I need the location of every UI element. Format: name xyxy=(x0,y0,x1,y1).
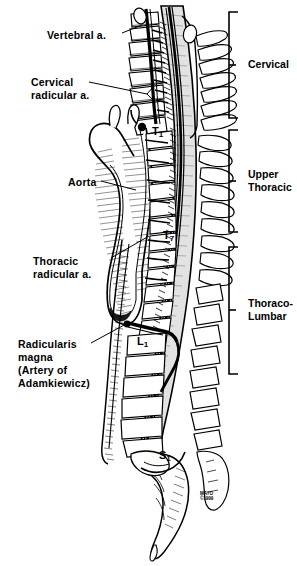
vertebral-level-t7: T7 xyxy=(163,229,174,241)
annotation-line: Radicularis xyxy=(18,338,90,351)
sacrum-coccyx xyxy=(131,451,189,561)
annotation-vertebral-artery: Vertebral a. xyxy=(47,29,106,42)
region-label-line: Cervical xyxy=(248,58,289,71)
annotation-line: radicular a. xyxy=(33,268,91,281)
vertebral-level-number: 7 xyxy=(170,234,174,243)
annotation-line: Aorta xyxy=(68,176,96,189)
vertebral-level-s1: S1 xyxy=(159,449,171,461)
aorta-vessel xyxy=(89,105,152,324)
region-label-upper-thoracic: Upper Thoracic xyxy=(248,168,292,193)
vertebral-level-l1: L1 xyxy=(137,335,148,347)
annotation-line: Cervical xyxy=(31,76,89,89)
region-label-cervical: Cervical xyxy=(248,58,289,71)
lumbar-posterior-elements xyxy=(190,284,223,450)
annotation-line: Vertebral a. xyxy=(47,29,106,42)
region-label-line: Upper xyxy=(248,168,292,181)
credit-line: ©1999 xyxy=(200,496,213,501)
cervical-spinous-processes xyxy=(196,31,236,130)
vertebral-level-letter: L xyxy=(137,335,144,347)
annotation-line: Thoracic xyxy=(33,255,91,268)
annotation-line: magna xyxy=(18,351,90,364)
vertebral-level-number: 1 xyxy=(166,454,170,463)
annotation-thoracic-radicular-artery: Thoracic radicular a. xyxy=(33,255,91,281)
region-label-thoraco-lumbar: Thoraco- Lumbar xyxy=(248,297,293,322)
vertebral-level-letter: T xyxy=(163,229,170,241)
vertebral-level-letter: T xyxy=(152,125,159,137)
annotation-aorta: Aorta xyxy=(68,176,96,189)
vertebral-level-number: 1 xyxy=(159,130,163,139)
annotation-line: (Artery of xyxy=(18,364,90,377)
vertebral-level-number: 1 xyxy=(144,340,148,349)
annotation-cervical-radicular-artery: Cervical radicular a. xyxy=(31,76,89,102)
vertebral-level-t1: T1 xyxy=(152,125,163,137)
region-label-line: Thoraco- xyxy=(248,297,293,310)
annotation-line: radicular a. xyxy=(31,89,89,102)
annotation-line: Adamkiewicz) xyxy=(18,377,90,390)
region-label-line: Thoracic xyxy=(248,181,292,194)
spinal-arterial-supply-figure: Vertebral a. Cervical radicular a. Aorta… xyxy=(0,0,297,566)
mayo-copyright-credit: MAYO ©1999 xyxy=(200,491,213,501)
region-label-line: Lumbar xyxy=(248,310,293,323)
annotation-radicularis-magna: Radicularis magna (Artery of Adamkiewicz… xyxy=(18,338,90,390)
